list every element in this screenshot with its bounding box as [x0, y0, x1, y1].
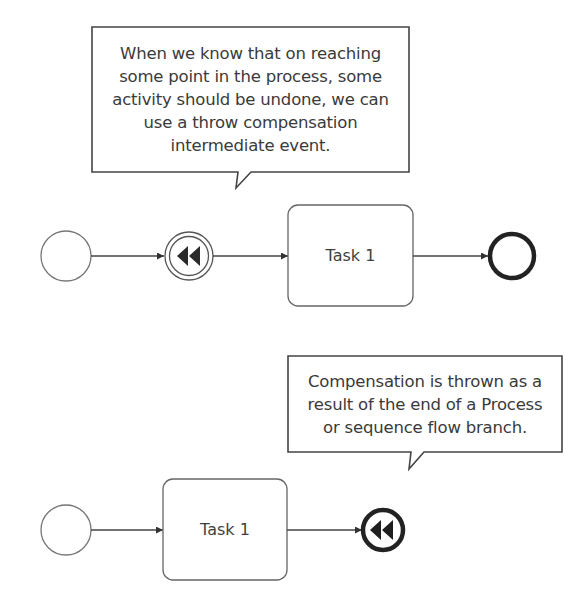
top-callout-line: intermediate event. [171, 134, 331, 157]
bottom-callout-line: result of the end of a Process [308, 393, 543, 416]
top-task-label: Task 1 [288, 205, 413, 306]
top-callout-line: activity should be undone, we can [112, 88, 388, 111]
bottom-callout-line: or sequence flow branch. [323, 416, 527, 439]
top-callout-text: When we know that on reaching some point… [92, 27, 409, 172]
bottom-compensation-end-event[interactable] [363, 510, 403, 550]
top-throw-compensation-intermediate-event[interactable] [165, 232, 213, 280]
top-callout-line: use a throw compensation [144, 111, 358, 134]
bottom-task-label: Task 1 [163, 479, 287, 580]
top-start-event[interactable] [41, 231, 91, 281]
top-end-event[interactable] [490, 234, 534, 278]
bottom-callout-text: Compensation is thrown as a result of th… [288, 356, 562, 452]
bottom-callout-line: Compensation is thrown as a [308, 370, 542, 393]
top-callout-line: When we know that on reaching [120, 42, 381, 65]
bottom-start-event[interactable] [41, 505, 91, 555]
top-callout-line: some point in the process, some [119, 65, 382, 88]
